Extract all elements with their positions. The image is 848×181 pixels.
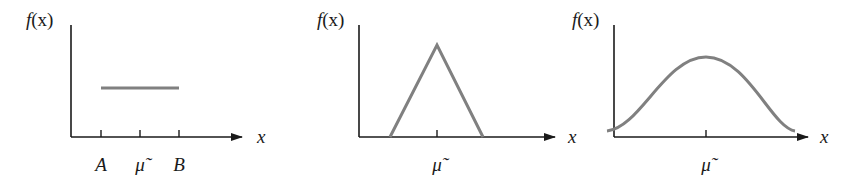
y-axis-label: f(x)	[572, 9, 599, 31]
panel-bell: f(x) x μ̃	[572, 9, 829, 175]
x-axis-label: x	[256, 126, 266, 147]
bell-density-curve	[607, 57, 795, 131]
tick-label-mu: μ̃	[700, 154, 719, 175]
x-axis-label: x	[819, 126, 829, 147]
triangular-density	[390, 45, 483, 137]
tick-label-mu: μ̃	[431, 154, 450, 175]
x-axis-label: x	[567, 126, 577, 147]
tick-label-A: A	[93, 154, 107, 175]
panel-triangular: f(x) x μ̃	[317, 9, 577, 175]
tick-label-B: B	[173, 154, 185, 175]
distribution-shapes-figure: f(x) x A μ̃ B f(x) x μ̃ f(x) x μ̃	[0, 0, 848, 181]
panel-uniform: f(x) x A μ̃ B	[26, 9, 266, 175]
y-axis-label: f(x)	[26, 9, 53, 31]
y-axis-label: f(x)	[317, 9, 344, 31]
tick-label-mu: μ̃	[134, 154, 153, 175]
